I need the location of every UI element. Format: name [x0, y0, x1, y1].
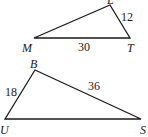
- triangle-LMT: L M T 30 12: [21, 0, 135, 55]
- triangle-BUS: B U S 18 36: [0, 57, 146, 137]
- side-label-UB: 18: [5, 85, 17, 99]
- vertex-label-L: L: [106, 0, 114, 7]
- vertex-label-M: M: [21, 41, 33, 55]
- triangle-LMT-shape: [34, 5, 130, 38]
- side-label-BS: 36: [88, 79, 100, 93]
- vertex-label-U: U: [0, 123, 10, 137]
- vertex-label-T: T: [127, 41, 135, 55]
- vertex-label-B: B: [30, 57, 38, 71]
- vertex-label-S: S: [140, 123, 146, 137]
- side-label-LT: 12: [121, 10, 133, 24]
- similar-triangles-diagram: L M T 30 12 B U S 18 36: [0, 0, 148, 137]
- side-label-MT: 30: [78, 40, 90, 54]
- triangle-BUS-shape: [5, 70, 141, 119]
